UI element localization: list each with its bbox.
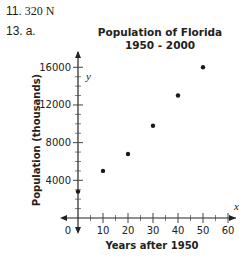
chart-title: Population of Florida — [98, 26, 222, 38]
data-point — [76, 189, 80, 193]
y-tick-label: 8000 — [46, 137, 71, 148]
data-points — [76, 65, 205, 194]
x-tick-label: 40 — [172, 225, 185, 236]
x-tick-label: 10 — [97, 225, 110, 236]
data-point — [151, 123, 155, 127]
y-axis-label: Population (thousands) — [31, 74, 42, 206]
x-tick-label: 20 — [122, 225, 135, 236]
axes: 0102030405060400080001200016000 — [39, 51, 236, 236]
x-tick-label: 60 — [222, 225, 235, 236]
data-point — [126, 152, 130, 156]
x-arrow-right-icon — [229, 215, 236, 221]
x-axis-label: Years after 1950 — [104, 240, 198, 251]
chart-subtitle: 1950 - 2000 — [125, 39, 195, 51]
scatter-chart: Population of Florida 1950 - 2000 010203… — [0, 0, 248, 260]
y-tick-label: 4000 — [46, 175, 71, 186]
data-point — [176, 93, 180, 97]
y-tick-label: 12000 — [39, 99, 71, 110]
y-tick-label: 16000 — [39, 62, 71, 73]
data-point — [101, 169, 105, 173]
y-axis-variable: y — [85, 70, 91, 82]
y-arrow-down-icon — [75, 227, 81, 234]
x-tick-label: 50 — [197, 225, 210, 236]
x-tick-label: 0 — [65, 225, 71, 236]
x-tick-label: 30 — [147, 225, 160, 236]
x-axis-variable: x — [233, 200, 239, 212]
y-arrow-up-icon — [75, 51, 81, 58]
x-arrow-left-icon — [60, 215, 67, 221]
data-point — [201, 65, 205, 69]
